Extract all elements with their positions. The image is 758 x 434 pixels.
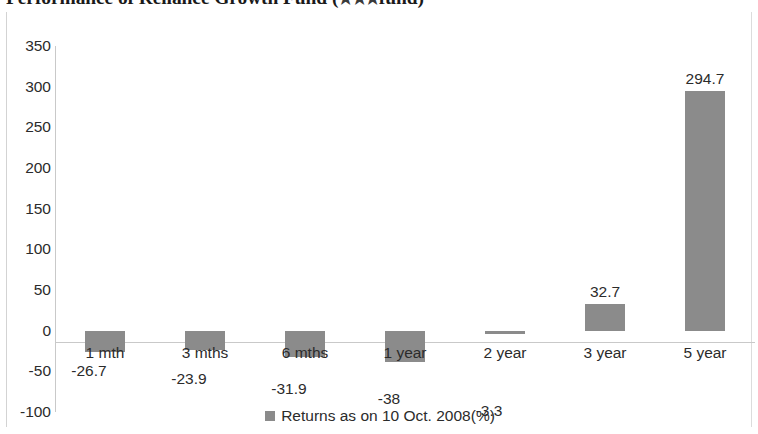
x-axis-category-label: 5 year [683, 345, 726, 361]
bar[interactable] [685, 91, 725, 331]
chart-legend: Returns as on 10 Oct. 2008(%) [7, 408, 753, 424]
plot-area: 1 mth-26.73 mths-23.96 mths-31.91 year-3… [55, 32, 755, 397]
star-rating-icon: ★★★ [338, 0, 379, 8]
x-axis-category-label: 3 year [583, 345, 626, 361]
bar-series: 1 mth-26.73 mths-23.96 mths-31.91 year-3… [55, 32, 755, 397]
bar-slot: 1 mth-26.7 [55, 32, 155, 397]
x-axis-category-label: 2 year [483, 345, 526, 361]
chart-page: Performance of Reliance Growth Fund (★★★… [0, 0, 758, 434]
bar-slot: 2 year-3.3 [455, 32, 555, 397]
chart-title: Performance of Reliance Growth Fund (★★★… [6, 0, 706, 11]
bar[interactable] [485, 331, 525, 334]
chart-title-text: Performance of Reliance Growth Fund [6, 0, 327, 8]
bar-value-label: 32.7 [590, 284, 620, 300]
y-axis-tick-0: 0 [11, 323, 51, 339]
y-axis-tick-100: 100 [11, 241, 51, 257]
chart-title-paren-close: fund) [379, 0, 424, 8]
y-axis-tick-150: 150 [11, 201, 51, 217]
legend-swatch-icon [265, 411, 275, 421]
bar-slot: 6 mths-31.9 [255, 32, 355, 397]
bar-value-label: 294.7 [686, 71, 725, 87]
y-axis-tick-350: 350 [11, 38, 51, 54]
y-axis-tick-250: 250 [11, 119, 51, 135]
bar-value-label: -23.9 [171, 371, 206, 387]
bar-slot: 3 year32.7 [555, 32, 655, 397]
bar-slot: 3 mths-23.9 [155, 32, 255, 397]
legend-label: Returns as on 10 Oct. 2008(%) [281, 408, 495, 424]
y-axis-tick-300: 300 [11, 79, 51, 95]
bar-value-label: -31.9 [271, 381, 306, 397]
bar-value-label: -26.7 [71, 363, 106, 379]
bar-slot: 5 year294.7 [655, 32, 755, 397]
x-axis-category-label: 1 mth [86, 345, 125, 361]
y-axis-tick-50: 50 [11, 282, 51, 298]
bar-slot: 1 year-38 [355, 32, 455, 397]
x-axis-category-label: 3 mths [182, 345, 229, 361]
chart-frame: 350300250200150100500-50-100 1 mth-26.73… [6, 12, 752, 427]
x-axis-category-label: 6 mths [282, 345, 329, 361]
x-axis-category-label: 1 year [383, 345, 426, 361]
bar[interactable] [585, 304, 625, 331]
y-axis-tick-labels: 350300250200150100500-50-100 [7, 32, 51, 397]
y-axis-tick-neg50: -50 [11, 363, 51, 379]
bar-value-label: -38 [378, 391, 400, 407]
y-axis-tick-200: 200 [11, 160, 51, 176]
